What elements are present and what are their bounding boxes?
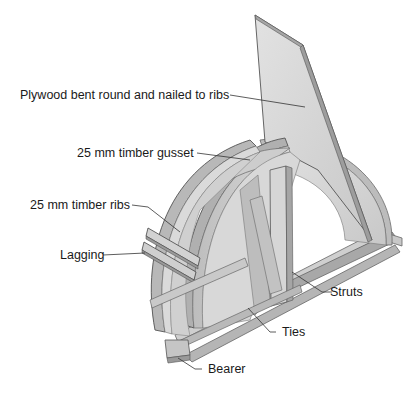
label-lagging: Lagging <box>60 248 105 262</box>
label-gusset: 25 mm timber gusset <box>77 146 194 160</box>
label-struts: Struts <box>330 285 363 299</box>
bearer <box>165 340 190 363</box>
label-ribs: 25 mm timber ribs <box>30 198 130 212</box>
centering-illustration <box>0 0 412 394</box>
label-bearer: Bearer <box>208 362 246 376</box>
label-plywood: Plywood bent round and nailed to ribs <box>20 88 229 102</box>
diagram-canvas: Plywood bent round and nailed to ribs 25… <box>0 0 412 394</box>
label-ties: Ties <box>282 325 305 339</box>
leader-lagging <box>103 253 145 255</box>
